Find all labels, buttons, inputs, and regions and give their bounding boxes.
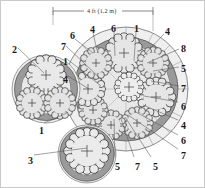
callout-label-6: 6 — [181, 136, 186, 146]
callout-label-6: 6 — [111, 24, 116, 34]
callout-label-4: 4 — [63, 75, 68, 85]
callout-label-7: 7 — [135, 162, 140, 172]
callout-label-5: 5 — [115, 162, 120, 172]
figure-root: 4 ft (1.2 m) 646148576467575714213 — [0, 0, 205, 188]
callout-label-1: 1 — [134, 24, 139, 34]
callout-label-1: 1 — [39, 126, 44, 136]
callout-label-6: 6 — [70, 31, 75, 41]
callout-label-8: 8 — [181, 44, 186, 54]
callout-label-7: 7 — [181, 84, 186, 94]
callout-label-2: 2 — [12, 45, 17, 55]
callout-label-4: 4 — [165, 27, 170, 37]
callout-label-5: 5 — [181, 64, 186, 74]
tree-canopy — [44, 87, 77, 120]
callout-label-3: 3 — [28, 156, 33, 166]
callout-label-5: 5 — [153, 162, 158, 172]
callout-label-7: 7 — [181, 151, 186, 161]
callout-label-7: 7 — [61, 42, 66, 52]
cluster-left — [12, 55, 80, 123]
callout-label-4: 4 — [90, 25, 95, 35]
cluster-bottom — [58, 125, 116, 183]
callout-label-4: 4 — [181, 121, 186, 131]
tree-canopy — [137, 47, 170, 80]
callout-label-6: 6 — [181, 102, 186, 112]
dimension-label: 4 ft (1.2 m) — [87, 7, 116, 14]
callout-label-1: 1 — [63, 57, 68, 67]
